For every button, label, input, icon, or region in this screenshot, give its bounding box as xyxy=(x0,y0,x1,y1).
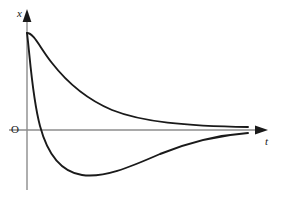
curve-upper xyxy=(27,33,248,127)
curve-lower xyxy=(27,33,248,176)
origin-label: O xyxy=(11,124,19,135)
y-axis-label: x xyxy=(17,8,22,19)
figure-root: x t O xyxy=(0,0,284,199)
x-axis-label: t xyxy=(265,136,268,147)
y-axis-arrowhead xyxy=(23,9,32,22)
x-axis-arrowhead xyxy=(255,126,268,135)
figure-plot xyxy=(0,0,284,199)
